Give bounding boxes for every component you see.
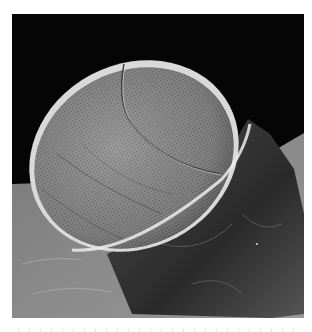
sem-micrograph	[12, 14, 304, 318]
figure-caption-clipped	[12, 326, 304, 332]
micrograph-scene	[12, 14, 304, 318]
